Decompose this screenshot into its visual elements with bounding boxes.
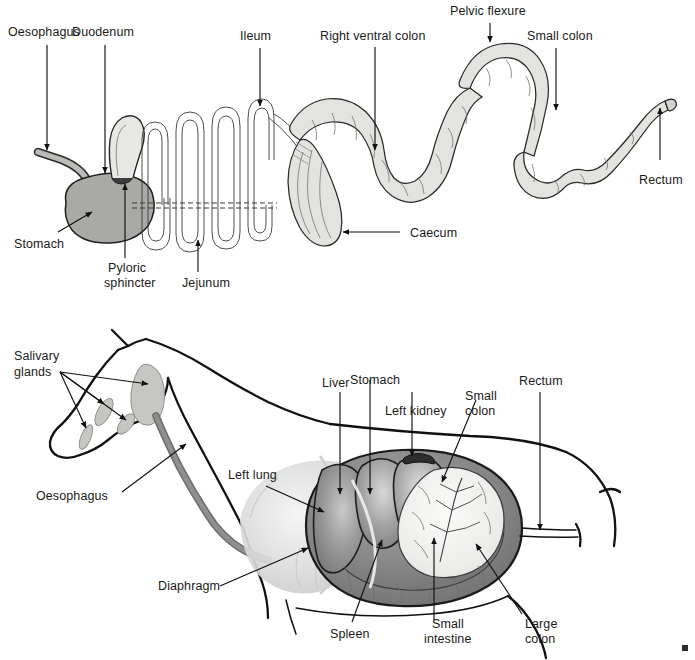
salivary-glands-shape	[76, 364, 164, 451]
label-stomach-lower: Stomach	[350, 373, 400, 387]
label-caecum: Caecum	[410, 226, 457, 240]
abdominal-organ-mass	[306, 450, 522, 606]
label-pyloric-sphincter-line2: sphincter	[104, 276, 156, 290]
rectum-shape	[520, 524, 581, 546]
label-small-intestine-line1: Small	[432, 617, 464, 631]
label-pyloric-sphincter-line1: Pyloric	[108, 261, 146, 275]
leader-salivary-gland-4	[60, 372, 86, 428]
upper-panel	[38, 23, 676, 272]
label-jejunum: Jejunum	[182, 276, 230, 290]
label-small-colon-upper: Small colon	[527, 29, 593, 43]
label-oesophagus-upper: Oesophagus	[8, 25, 80, 39]
label-ileum: Ileum	[240, 29, 271, 43]
label-rectum-lower: Rectum	[519, 374, 563, 388]
label-diaphragm: Diaphragm	[158, 579, 220, 593]
equine-digestive-figure: Oesophagus Duodenum Ileum Right ventral …	[0, 0, 695, 660]
label-right-ventral-colon: Right ventral colon	[320, 29, 425, 43]
label-left-kidney: Left kidney	[385, 404, 447, 418]
label-large-colon-line2: colon	[525, 632, 555, 646]
upper-caecum-shape	[288, 139, 342, 246]
label-stomach-upper: Stomach	[14, 237, 64, 251]
label-left-lung: Left lung	[228, 468, 277, 482]
label-spleen: Spleen	[330, 627, 370, 641]
label-small-colon-lower-line1: Small	[465, 389, 497, 403]
label-large-colon-line1: Large	[525, 617, 557, 631]
label-small-intestine-line2: intestine	[424, 632, 471, 646]
label-oesophagus-lower: Oesophagus	[36, 489, 108, 503]
label-pelvic-flexure: Pelvic flexure	[450, 4, 526, 18]
upper-jejunum-shape	[132, 99, 277, 252]
label-liver: Liver	[322, 376, 350, 390]
label-duodenum: Duodenum	[72, 25, 134, 39]
label-small-colon-lower-line2: colon	[465, 404, 495, 418]
figure-canvas: Oesophagus Duodenum Ileum Right ventral …	[0, 0, 695, 660]
label-salivary-glands-line1: Salivary	[14, 349, 60, 363]
corner-print-mark	[682, 645, 688, 651]
label-salivary-glands-line2: glands	[14, 365, 51, 379]
upper-duodenum-shape	[109, 116, 144, 178]
label-rectum-upper: Rectum	[639, 173, 683, 187]
